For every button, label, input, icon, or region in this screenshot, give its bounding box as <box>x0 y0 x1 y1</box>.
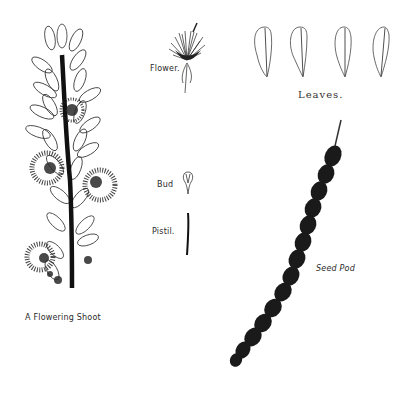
seed-pod-label: Seed Pod <box>316 264 355 273</box>
flowering-shoot-illustration <box>0 0 140 300</box>
seed-pod-illustration <box>225 118 350 368</box>
pistil-label: Pistil. <box>152 227 175 236</box>
flower-illustration <box>165 25 215 100</box>
pistil-illustration <box>184 212 192 257</box>
bud-label: Bud <box>157 180 173 189</box>
flowering-shoot-label: A Flowering Shoot <box>25 313 101 322</box>
leaves-illustration <box>245 25 395 80</box>
bud-illustration <box>180 170 196 196</box>
leaves-label: Leaves. <box>298 89 343 100</box>
flower-label: Flower. <box>150 64 180 73</box>
